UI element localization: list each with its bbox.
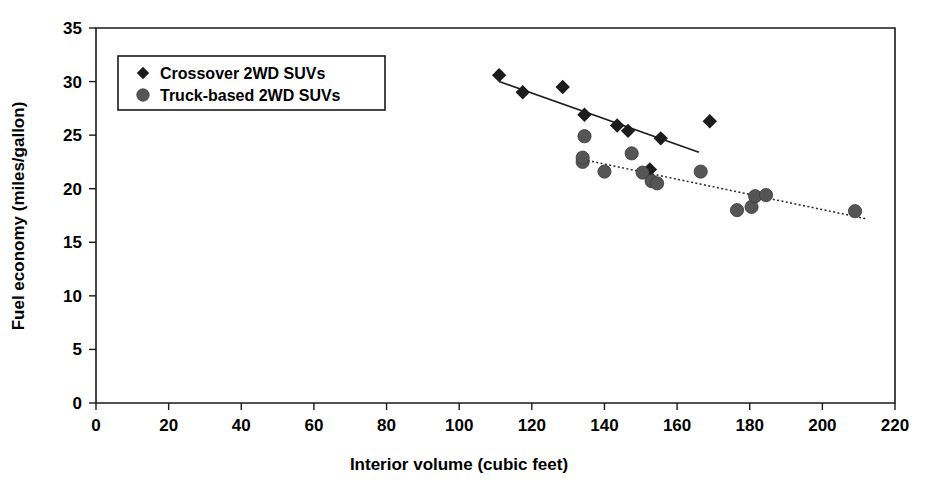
scatter-plot: 020406080100120140160180200220 051015202… bbox=[0, 0, 933, 487]
x-tick-label: 100 bbox=[445, 416, 473, 435]
data-point-circle bbox=[625, 147, 638, 160]
x-tick-label: 160 bbox=[663, 416, 691, 435]
chart-figure: 020406080100120140160180200220 051015202… bbox=[0, 0, 933, 487]
y-tick-label: 25 bbox=[63, 126, 82, 145]
x-tick-label: 80 bbox=[377, 416, 396, 435]
y-tick-label: 10 bbox=[63, 287, 82, 306]
x-tick-label: 20 bbox=[159, 416, 178, 435]
data-point-circle bbox=[651, 177, 664, 190]
y-tick-label: 15 bbox=[63, 233, 82, 252]
legend-label-truck: Truck-based 2WD SUVs bbox=[160, 87, 341, 104]
legend-marker-circle-icon bbox=[137, 89, 149, 101]
data-point-circle bbox=[730, 204, 743, 217]
x-tick-label: 120 bbox=[518, 416, 546, 435]
legend: Crossover 2WD SUVs Truck-based 2WD SUVs bbox=[118, 56, 385, 110]
x-tick-label: 220 bbox=[881, 416, 909, 435]
y-tick-label: 20 bbox=[63, 180, 82, 199]
data-point-circle bbox=[576, 151, 589, 164]
data-point-circle bbox=[578, 130, 591, 143]
x-tick-label: 40 bbox=[232, 416, 251, 435]
data-point-circle bbox=[848, 205, 861, 218]
y-tick-label: 5 bbox=[73, 340, 82, 359]
legend-label-crossover: Crossover 2WD SUVs bbox=[160, 65, 325, 82]
y-tick-label: 30 bbox=[63, 73, 82, 92]
x-tick-label: 200 bbox=[808, 416, 836, 435]
x-tick-label: 60 bbox=[304, 416, 323, 435]
data-point-circle bbox=[598, 165, 611, 178]
x-tick-label: 0 bbox=[91, 416, 100, 435]
data-point-circle bbox=[759, 189, 772, 202]
y-axis-title: Fuel economy (miles/gallon) bbox=[9, 102, 28, 331]
x-tick-label: 140 bbox=[590, 416, 618, 435]
x-axis-title: Interior volume (cubic feet) bbox=[350, 455, 568, 474]
x-tick-label: 180 bbox=[736, 416, 764, 435]
y-tick-label: 0 bbox=[73, 394, 82, 413]
y-tick-label: 35 bbox=[63, 19, 82, 38]
data-point-circle bbox=[694, 165, 707, 178]
